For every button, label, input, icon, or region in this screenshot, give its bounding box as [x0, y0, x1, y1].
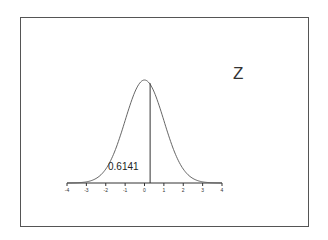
chart-title: Z — [233, 64, 243, 84]
x-tick-label: 0 — [143, 187, 146, 193]
x-tick-label: 1 — [162, 187, 165, 193]
x-axis-ticks: -4-3-2-101234 — [65, 183, 224, 193]
area-value-label: 0.6141 — [108, 161, 139, 172]
x-tick-label: -3 — [84, 187, 89, 193]
x-tick-label: -2 — [104, 187, 109, 193]
x-tick-label: -1 — [123, 187, 128, 193]
x-tick-label: 4 — [221, 187, 224, 193]
normal-curve-chart: -4-3-2-101234 0.6141 — [0, 0, 328, 240]
x-tick-label: -4 — [65, 187, 70, 193]
x-tick-label: 3 — [201, 187, 204, 193]
x-tick-label: 2 — [182, 187, 185, 193]
normal-density-curve — [67, 80, 222, 183]
